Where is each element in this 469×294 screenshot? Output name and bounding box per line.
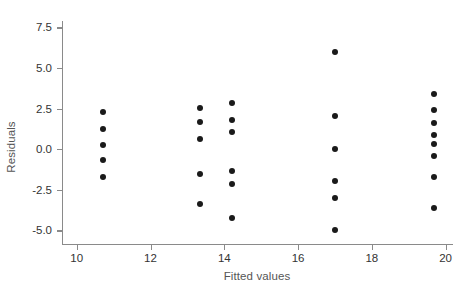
plot-area (62, 21, 453, 245)
data-point (100, 142, 106, 148)
x-tick-label: 16 (278, 252, 318, 264)
x-tick-label: 18 (352, 252, 392, 264)
data-point (332, 178, 338, 184)
data-point (229, 100, 235, 106)
data-point (229, 181, 235, 187)
data-point (197, 136, 203, 142)
data-point (431, 174, 437, 180)
x-axis-label: Fitted values (62, 270, 452, 282)
data-point (100, 157, 106, 163)
residuals-vs-fitted-scatter-chart: Residuals -5.0-2.50.02.55.07.5 101214161… (0, 0, 469, 294)
data-point (229, 129, 235, 135)
data-point (197, 105, 203, 111)
data-point (332, 49, 338, 55)
data-point (100, 126, 106, 132)
data-point (197, 171, 203, 177)
y-tick-label: 2.5 (8, 103, 52, 115)
x-tick-label: 20 (426, 252, 466, 264)
data-point (431, 132, 437, 138)
x-tick-label: 10 (57, 252, 97, 264)
data-point (229, 117, 235, 123)
y-tick-label: 0.0 (8, 143, 52, 155)
data-point (229, 168, 235, 174)
data-point (100, 109, 106, 115)
data-point (100, 174, 106, 180)
data-point (431, 107, 437, 113)
y-tick-label: 7.5 (8, 21, 52, 33)
y-tick-label: 5.0 (8, 62, 52, 74)
x-tick-label: 12 (131, 252, 171, 264)
data-point (332, 195, 338, 201)
y-tick-label: -2.5 (8, 184, 52, 196)
x-tick-mark (298, 245, 299, 250)
data-point (229, 215, 235, 221)
data-point (431, 153, 437, 159)
data-point (431, 205, 437, 211)
data-point (332, 227, 338, 233)
x-tick-mark (224, 245, 225, 250)
x-tick-label: 14 (204, 252, 244, 264)
x-tick-mark (151, 245, 152, 250)
y-tick-label: -5.0 (8, 224, 52, 236)
data-point (431, 91, 437, 97)
data-point (332, 146, 338, 152)
data-point (332, 113, 338, 119)
data-point (431, 120, 437, 126)
x-tick-mark (77, 245, 78, 250)
x-tick-mark (372, 245, 373, 250)
x-tick-mark (446, 245, 447, 250)
data-point (197, 201, 203, 207)
data-point (431, 141, 437, 147)
data-point (197, 119, 203, 125)
